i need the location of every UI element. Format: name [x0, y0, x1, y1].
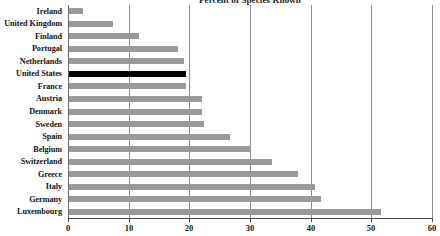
bar [69, 184, 315, 190]
bar [69, 58, 184, 64]
bar [69, 96, 202, 102]
category-axis-labels: IrelandUnited KingdomFinlandPortugalNeth… [0, 5, 65, 218]
bar [69, 159, 272, 165]
bar [69, 171, 298, 177]
category-label: France [38, 82, 62, 91]
bar [69, 83, 186, 89]
x-tick-label: 10 [125, 223, 134, 233]
category-label: United States [16, 69, 62, 78]
category-label: Finland [35, 32, 62, 41]
bar [69, 33, 139, 39]
plot-area [68, 5, 432, 218]
x-tick-40 [311, 218, 312, 222]
category-label: Greece [38, 170, 62, 179]
bar [69, 46, 178, 52]
category-label: Ireland [37, 7, 62, 16]
bar [69, 146, 251, 152]
x-tick-label: 20 [185, 223, 194, 233]
category-label: Spain [42, 132, 62, 141]
x-tick-60 [432, 218, 433, 222]
category-label: Sweden [35, 120, 62, 129]
x-tick-20 [189, 218, 190, 222]
x-tick-10 [129, 218, 130, 222]
bar [69, 196, 321, 202]
x-tick-label: 40 [307, 223, 316, 233]
gridline-50 [371, 5, 372, 218]
category-label: Portugal [32, 44, 62, 53]
bar-chart: Percent of Species Known IrelandUnited K… [0, 0, 440, 236]
category-label: Belgium [33, 145, 62, 154]
bar [69, 134, 230, 140]
bar [69, 8, 83, 14]
x-tick-30 [250, 218, 251, 222]
category-label: Netherlands [20, 57, 62, 66]
bar [69, 109, 202, 115]
category-label: Austria [36, 94, 62, 103]
x-tick-label: 60 [428, 223, 437, 233]
bar [69, 121, 204, 127]
bar [69, 71, 186, 77]
category-label: Italy [46, 182, 62, 191]
x-tick-label: 0 [66, 223, 70, 233]
bar [69, 21, 113, 27]
category-label: Luxembourg [17, 207, 62, 216]
x-tick-0 [68, 218, 69, 222]
x-tick-50 [371, 218, 372, 222]
x-tick-label: 50 [367, 223, 376, 233]
bar [69, 209, 381, 215]
category-label: United Kingdom [4, 19, 62, 28]
category-label: Germany [29, 195, 62, 204]
category-label: Switzerland [21, 157, 62, 166]
category-label: Denmark [29, 107, 62, 116]
gridline-60 [432, 5, 433, 218]
x-tick-label: 30 [246, 223, 255, 233]
